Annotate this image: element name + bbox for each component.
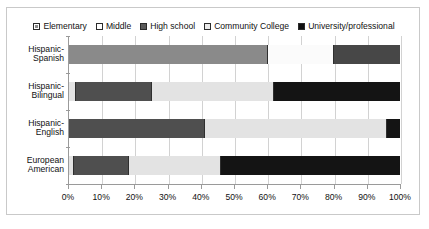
legend-item-label: Middle <box>106 21 131 31</box>
bar-segment[interactable] <box>74 156 129 175</box>
value-axis-line <box>68 184 400 185</box>
value-axis-tick <box>234 184 235 189</box>
category-label: EuropeanAmerican <box>10 156 64 175</box>
plot-wrapper: Hispanic-SpanishHispanic-BilingualHispan… <box>7 36 421 214</box>
value-axis-tick <box>367 184 368 189</box>
category-label-line: Bilingual <box>10 91 64 101</box>
category-label-line: Spanish <box>10 54 64 64</box>
stacked-bar[interactable] <box>69 119 400 138</box>
legend-item-middle[interactable]: Middle <box>96 21 131 31</box>
stacked-bar[interactable] <box>69 45 400 64</box>
bar-segment[interactable] <box>76 82 152 101</box>
value-axis-tick-label: 80% <box>317 192 351 203</box>
bar-row <box>69 82 400 101</box>
value-axis-tick <box>300 184 301 189</box>
bar-segment[interactable] <box>274 82 400 101</box>
value-axis-tick-label: 50% <box>217 192 251 203</box>
value-axis-tick-label: 100% <box>383 192 417 203</box>
bar-segment[interactable] <box>152 82 274 101</box>
legend-item-label: University/professional <box>308 21 394 31</box>
category-label: Hispanic-English <box>10 119 64 138</box>
value-axis-tick-label: 30% <box>151 192 185 203</box>
category-label-line: American <box>10 165 64 175</box>
bar-segment[interactable] <box>387 119 400 138</box>
bar-row <box>69 156 400 175</box>
value-axis-tick <box>134 184 135 189</box>
value-axis-tick <box>400 184 401 189</box>
legend-item-label: Elementary <box>43 21 86 31</box>
value-axis-tick <box>68 184 69 189</box>
legend-item-label: High school <box>150 21 195 31</box>
legend-item-university-professional[interactable]: University/professional <box>298 21 394 31</box>
legend-swatch-icon <box>204 23 211 30</box>
value-axis-tick-label: 70% <box>283 192 317 203</box>
value-axis-tick-label: 10% <box>84 192 118 203</box>
legend-item-label: Community College <box>214 21 289 31</box>
value-axis-tick <box>101 184 102 189</box>
bar-row <box>69 45 400 64</box>
bar-row <box>69 119 400 138</box>
bar-segment[interactable] <box>69 82 76 101</box>
value-axis-tick <box>334 184 335 189</box>
legend-item-elementary[interactable]: Elementary <box>33 21 86 31</box>
value-axis-tick-label: 20% <box>117 192 151 203</box>
bar-segment[interactable] <box>69 45 268 64</box>
value-axis-tick-label: 0% <box>51 192 85 203</box>
bar-segment[interactable] <box>205 119 387 138</box>
value-axis-tick <box>201 184 202 189</box>
bar-segment[interactable] <box>221 156 400 175</box>
value-axis-tick-label: 40% <box>184 192 218 203</box>
bar-segment[interactable] <box>69 119 205 138</box>
legend-swatch-icon <box>140 23 147 30</box>
legend-swatch-icon <box>96 23 103 30</box>
stacked-bar[interactable] <box>69 156 400 175</box>
value-axis-tick <box>168 184 169 189</box>
legend-swatch-icon <box>298 23 305 30</box>
value-axis-tick-labels: 0%10%20%30%40%50%60%70%80%90%100% <box>68 192 400 206</box>
bar-segment[interactable] <box>129 156 222 175</box>
chart-container: ElementaryMiddleHigh schoolCommunity Col… <box>6 7 420 215</box>
value-axis-tick <box>267 184 268 189</box>
chart-legend: ElementaryMiddleHigh schoolCommunity Col… <box>7 18 421 34</box>
category-label: Hispanic-Bilingual <box>10 82 64 101</box>
category-axis: Hispanic-SpanishHispanic-BilingualHispan… <box>11 36 66 184</box>
stacked-bar[interactable] <box>69 82 400 101</box>
bar-segment[interactable] <box>268 45 334 64</box>
value-axis-tick-label: 90% <box>350 192 384 203</box>
gridline <box>401 36 402 184</box>
plot-area <box>68 36 400 184</box>
value-axis-tick-label: 60% <box>250 192 284 203</box>
legend-swatch-icon <box>33 23 40 30</box>
legend-item-high-school[interactable]: High school <box>140 21 195 31</box>
category-label: Hispanic-Spanish <box>10 45 64 64</box>
category-label-line: English <box>10 128 64 138</box>
legend-item-community-college[interactable]: Community College <box>204 21 289 31</box>
bar-segment[interactable] <box>334 45 400 64</box>
